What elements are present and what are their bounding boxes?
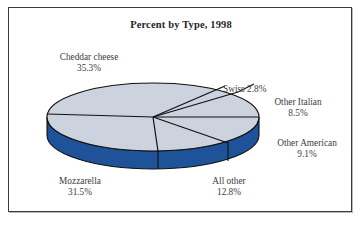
slice-label-mozzarella: Mozzarella 31.5% bbox=[31, 176, 129, 199]
slice-label-cheddar-name: Cheddar cheese bbox=[37, 52, 141, 63]
slice-label-other-italian-name: Other Italian bbox=[249, 97, 347, 108]
slice-label-cheddar-value: 35.3% bbox=[37, 63, 141, 74]
slice-label-swiss: Swiss 2.8% bbox=[223, 84, 321, 95]
slice-label-mozzarella-value: 31.5% bbox=[31, 187, 129, 198]
slice-label-other-italian: Other Italian 8.5% bbox=[249, 97, 347, 120]
slice-label-other-american-name: Other American bbox=[259, 138, 355, 149]
slice-label-other-american: Other American 9.1% bbox=[259, 138, 355, 161]
slice-label-other-italian-value: 8.5% bbox=[249, 108, 347, 119]
slice-label-mozzarella-name: Mozzarella bbox=[31, 176, 129, 187]
slice-label-other-american-value: 9.1% bbox=[259, 149, 355, 160]
slice-label-all-other-name: All other bbox=[187, 176, 271, 187]
slice-label-swiss-text: Swiss 2.8% bbox=[223, 84, 266, 94]
slice-label-all-other: All other 12.8% bbox=[187, 176, 271, 199]
slice-label-cheddar-cheese: Cheddar cheese 35.3% bbox=[37, 52, 141, 75]
chart-figure-frame: Percent by Type, 1998 Chedda bbox=[8, 7, 352, 212]
slice-label-all-other-value: 12.8% bbox=[187, 187, 271, 198]
